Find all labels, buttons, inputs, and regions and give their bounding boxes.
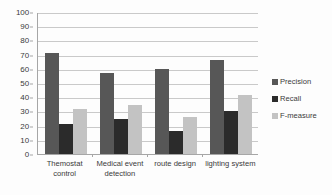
y-tick-mark [30, 155, 33, 156]
y-tick-label: 20 [20, 123, 29, 131]
legend-swatch-icon [272, 113, 278, 119]
legend-item[interactable]: Recall [272, 95, 332, 103]
bar-group [38, 13, 93, 154]
x-axis-label: Medical event detection [92, 159, 147, 179]
legend-item[interactable]: Precision [272, 78, 332, 86]
x-axis-label: route design [148, 159, 203, 179]
bar-fmeasure [128, 105, 142, 154]
y-tick-mark [30, 41, 33, 42]
legend-swatch-icon [272, 79, 278, 85]
bar-recall [169, 131, 183, 154]
x-axis-label: lighting system [203, 159, 258, 179]
y-tick-mark [30, 84, 33, 85]
y-tick-label: 100 [16, 9, 29, 17]
bars-layer [38, 13, 258, 154]
legend-label: Precision [280, 78, 311, 86]
bar-group [148, 13, 203, 154]
bar-recall [59, 124, 73, 154]
bar-precision [210, 60, 224, 154]
legend-item[interactable]: F-measure [272, 112, 332, 120]
legend-label: Recall [280, 95, 301, 103]
y-tick-mark [30, 126, 33, 127]
y-tick-label: 30 [20, 108, 29, 116]
bar-chart: 1009080706050403020100 Themostat control… [0, 0, 332, 195]
bar-fmeasure [238, 95, 252, 154]
y-tick-mark [30, 27, 33, 28]
x-tick-mark [92, 154, 93, 157]
chart-legend: PrecisionRecallF-measure [272, 78, 332, 129]
y-axis: 1009080706050403020100 [0, 13, 33, 155]
y-tick-mark [30, 112, 33, 113]
y-tick-mark [30, 98, 33, 99]
legend-swatch-icon [272, 96, 278, 102]
y-tick-mark [30, 13, 33, 14]
y-tick-label: 90 [20, 23, 29, 31]
y-tick-label: 50 [20, 80, 29, 88]
x-axis-label: Themostat control [37, 159, 92, 179]
y-tick-label: 40 [20, 94, 29, 102]
bar-precision [45, 53, 59, 154]
bar-precision [100, 73, 114, 154]
y-tick-label: 70 [20, 52, 29, 60]
bar-fmeasure [73, 109, 87, 154]
y-tick-label: 10 [20, 137, 29, 145]
y-tick-label: 60 [20, 66, 29, 74]
y-tick-mark [30, 55, 33, 56]
bar-recall [114, 119, 128, 155]
bar-recall [224, 111, 238, 154]
x-axis: Themostat controlMedical event detection… [37, 159, 258, 179]
bar-precision [155, 69, 169, 154]
bar-group [203, 13, 258, 154]
x-tick-mark [202, 154, 203, 157]
bar-fmeasure [183, 117, 197, 154]
x-tick-mark [147, 154, 148, 157]
y-tick-mark [30, 140, 33, 141]
bar-group [93, 13, 148, 154]
plot-area [37, 13, 258, 155]
y-tick-label: 0 [25, 151, 29, 159]
y-tick-label: 80 [20, 37, 29, 45]
legend-label: F-measure [280, 112, 317, 120]
y-tick-mark [30, 69, 33, 70]
